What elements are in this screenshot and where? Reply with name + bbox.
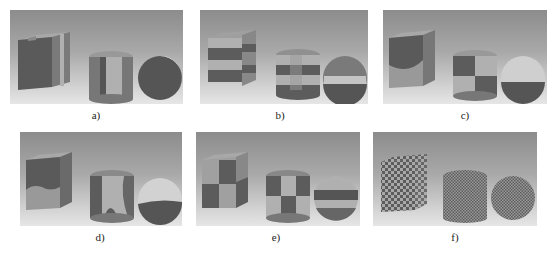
shapes-horizontal-bands	[200, 10, 368, 104]
panel-d	[20, 132, 182, 226]
panel-c	[383, 10, 547, 104]
panel-label-c: c)	[445, 109, 485, 121]
panel-label-b: b)	[260, 109, 300, 121]
panel-label-a: a)	[76, 109, 116, 121]
panel-label-f: f)	[435, 231, 475, 243]
shapes-vertical-slabs	[10, 10, 183, 104]
panel-b	[200, 10, 368, 104]
shapes-fine-checkerboard	[373, 132, 537, 226]
shapes-coarse-checkerboard	[196, 132, 360, 226]
shapes-blob-regions	[20, 132, 182, 226]
panel-label-d: d)	[80, 231, 120, 243]
panel-a	[10, 10, 183, 104]
panel-label-e: e)	[256, 231, 296, 243]
panel-f	[373, 132, 537, 226]
shapes-curved-regions	[383, 10, 547, 104]
panel-e	[196, 132, 360, 226]
